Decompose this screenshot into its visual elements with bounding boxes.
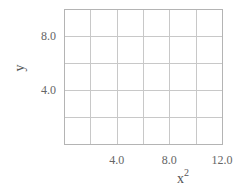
gridlines <box>64 9 222 144</box>
x-tick-labels: 4.08.012.0 <box>109 153 232 167</box>
x-axis-label: x2 <box>177 167 189 186</box>
y-tick-label: 8.0 <box>41 29 56 43</box>
x-tick-label: 12.0 <box>212 153 233 167</box>
y-axis-label: y <box>12 65 27 72</box>
y-tick-label: 4.0 <box>41 83 56 97</box>
chart: 4.08.012.0 4.08.0 x2 y <box>0 0 247 190</box>
y-tick-labels: 4.08.0 <box>41 29 56 97</box>
x-tick-label: 4.0 <box>109 153 124 167</box>
x-tick-label: 8.0 <box>162 153 177 167</box>
